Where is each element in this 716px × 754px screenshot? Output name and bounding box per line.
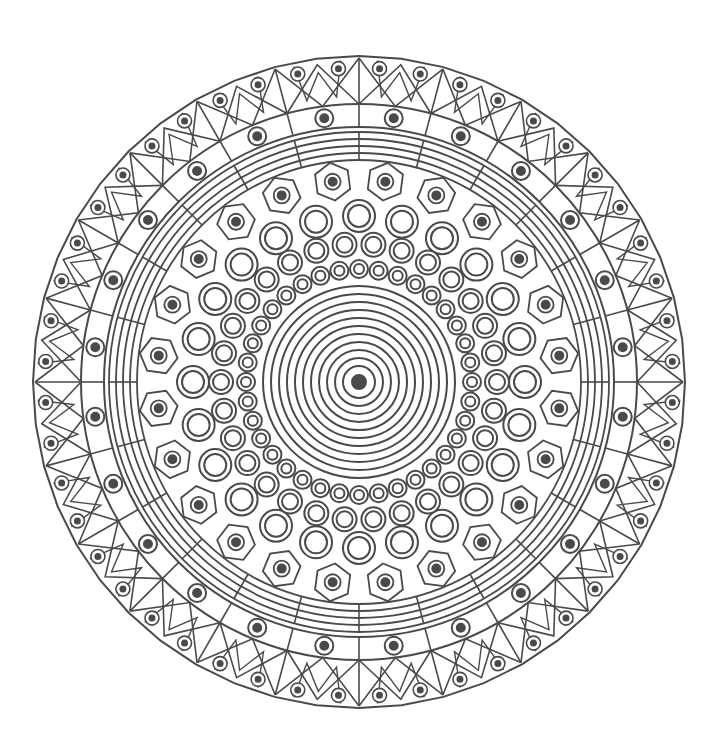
hexagon-dot xyxy=(432,565,440,573)
hexagon-dot xyxy=(168,301,176,309)
dot-center xyxy=(593,172,598,177)
hexagon-dot xyxy=(381,578,389,586)
dot-ring-center xyxy=(566,540,574,548)
hexagon-dot xyxy=(515,501,523,509)
hexagon-dot xyxy=(329,178,337,186)
segment-divider xyxy=(600,521,640,544)
ring-circle-outer xyxy=(370,262,388,280)
ring-circle-outer xyxy=(263,446,281,464)
dot-center xyxy=(457,82,462,87)
hexagon-dot xyxy=(515,255,523,263)
segment-divider xyxy=(130,579,163,612)
dot-center xyxy=(670,359,675,364)
segment-divider xyxy=(197,101,220,141)
ring-circle-outer xyxy=(237,373,255,391)
hexagon-dot xyxy=(555,352,563,360)
center-dot xyxy=(352,375,366,389)
dot-ring-center xyxy=(144,216,152,224)
dot-ring-divider xyxy=(287,628,293,650)
segment-divider xyxy=(498,623,521,663)
hexagon-dot xyxy=(478,538,486,546)
ring-circle-outer xyxy=(389,479,407,497)
hexagon-spoke xyxy=(494,206,495,207)
hexagon-dot xyxy=(155,352,163,360)
hexagon-dot xyxy=(555,404,563,412)
dot-ring-center xyxy=(91,343,99,351)
dot-ring-center xyxy=(390,114,398,122)
dot-ring-center xyxy=(390,642,398,650)
dot-center xyxy=(638,518,643,523)
dot-ring-divider xyxy=(539,562,555,578)
mandala-artwork xyxy=(0,0,716,754)
dot-ring-center xyxy=(253,132,261,140)
ring-circle-outer xyxy=(244,412,262,430)
dot-center xyxy=(75,241,80,246)
ring-circle-outer xyxy=(456,412,474,430)
ring-circle-outer xyxy=(239,353,257,371)
dot-center xyxy=(336,66,341,71)
dot-ring-divider xyxy=(220,141,232,161)
ring-circle-outer xyxy=(461,393,479,411)
dot-ring-center xyxy=(601,480,609,488)
dot-ring-center xyxy=(144,540,152,548)
dot-center xyxy=(638,241,643,246)
dot-ring-divider xyxy=(162,185,178,201)
dot-ring-divider xyxy=(539,185,555,201)
ring-circle-outer xyxy=(407,275,425,293)
ring-circle-outer xyxy=(277,286,295,304)
ring-circle-outer xyxy=(311,267,329,285)
hexagon-dot xyxy=(381,178,389,186)
dot-center xyxy=(218,661,223,666)
dot-center xyxy=(654,279,659,284)
dot-center xyxy=(618,554,623,559)
ring-circle-outer xyxy=(239,393,257,411)
dot-ring-center xyxy=(91,413,99,421)
ring-circle-outer xyxy=(350,260,368,278)
ring-circle-outer xyxy=(448,317,466,335)
hexagon-dot xyxy=(478,218,486,226)
dot-center xyxy=(95,554,100,559)
segment-divider xyxy=(275,69,287,113)
segment-divider xyxy=(275,651,287,695)
dot-center xyxy=(418,72,423,77)
dot-center xyxy=(256,677,261,682)
segment-divider xyxy=(46,454,90,466)
segment-divider xyxy=(431,69,443,113)
dot-ring-center xyxy=(109,276,117,284)
ring-circle-outer xyxy=(437,446,455,464)
dot-ring-center xyxy=(619,413,627,421)
ring-circle-outer xyxy=(448,430,466,448)
dot-center xyxy=(295,687,300,692)
hexagon-spoke xyxy=(494,557,495,558)
dot-ring-center xyxy=(517,589,525,597)
dot-center xyxy=(295,72,300,77)
dot-ring-center xyxy=(619,343,627,351)
ring-circle-outer xyxy=(456,334,474,352)
ring-circle-outer xyxy=(294,471,312,489)
hexagon-dot xyxy=(542,301,550,309)
hexagon-dot xyxy=(155,404,163,412)
ring-circle-outer xyxy=(330,484,348,502)
hexagon-dot xyxy=(432,191,440,199)
hexagon-dot xyxy=(168,455,176,463)
dot-ring-divider xyxy=(425,113,431,135)
dot-ring-center xyxy=(253,624,261,632)
dot-center xyxy=(654,480,659,485)
hexagon-spoke xyxy=(534,517,535,518)
dot-center xyxy=(43,400,48,405)
hexagon-dot xyxy=(542,455,550,463)
dot-center xyxy=(457,677,462,682)
ring-circle-outer xyxy=(252,317,270,335)
dot-ring-divider xyxy=(90,448,112,454)
segment-divider xyxy=(556,579,589,612)
dot-center xyxy=(531,641,536,646)
dot-center xyxy=(256,82,261,87)
dot-center xyxy=(59,480,64,485)
hexagon-dot xyxy=(195,255,203,263)
ring-circle-outer xyxy=(311,479,329,497)
dot-center xyxy=(418,687,423,692)
ring-circle-outer xyxy=(350,486,368,504)
dot-ring-center xyxy=(517,167,525,175)
dot-ring-center xyxy=(193,167,201,175)
dot-ring-center xyxy=(457,132,465,140)
